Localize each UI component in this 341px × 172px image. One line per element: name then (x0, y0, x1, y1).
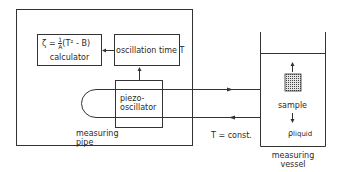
density-label: ρliquid (288, 129, 312, 139)
piezo-label-line1: piezo- (120, 94, 144, 103)
measuring-pipe-label-line1: measuring (76, 129, 119, 138)
sample-label: sample (270, 101, 315, 110)
temperature-constant-note: T = const. (211, 131, 252, 140)
arrow-head-down-icon (291, 119, 295, 123)
calculator-formula: ζ = 1 A (T² - B) (42, 37, 90, 50)
calculator-label: calculator (37, 53, 102, 62)
arrow-head-right-icon (227, 88, 233, 92)
oscillation-time-label: oscillation time T (116, 46, 184, 55)
piezo-label-line2: oscillator (120, 103, 156, 112)
sample-block (285, 74, 301, 91)
arrow-head-left-icon (229, 116, 235, 120)
formula-equals: = (49, 39, 56, 48)
measuring-vessel-label-line2: vessel (265, 160, 321, 169)
measuring-vessel-label-line1: measuring (265, 151, 321, 160)
diagram-canvas (0, 0, 341, 172)
density-subscript: liquid (293, 130, 312, 138)
arrow-head-up-icon (291, 62, 295, 66)
arrow-head-left-icon (102, 49, 106, 53)
measuring-pipe (82, 90, 261, 118)
arrow-head-up-icon (138, 67, 142, 71)
formula-lhs: ζ (42, 39, 46, 48)
formula-rhs: (T² - B) (62, 39, 90, 48)
instrument-housing (17, 10, 193, 146)
measuring-pipe-label-line2: pipe (76, 138, 93, 147)
